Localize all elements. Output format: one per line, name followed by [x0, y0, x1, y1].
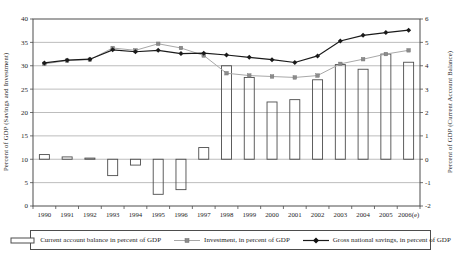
bar-current-account: [130, 159, 140, 165]
legend-item-gross-national-savings: Gross national savings, in percent of GD…: [303, 236, 451, 245]
x-tick-label: 2003: [334, 211, 348, 218]
investment-marker: [384, 52, 388, 56]
savings-marker: [178, 51, 183, 56]
right-tick-label: 2: [425, 109, 429, 117]
left-tick-label: 30: [21, 62, 29, 70]
legend-label-investment: Investment, in percent of GDP: [204, 236, 290, 244]
bar-current-account: [335, 65, 345, 160]
investment-line-swatch-icon: [174, 236, 200, 245]
x-tick-label: 1990: [38, 211, 52, 218]
legend-label-gross-national-savings: Gross national savings, in percent of GD…: [333, 236, 451, 244]
savings-marker: [156, 48, 161, 53]
x-tick-label: 1997: [197, 211, 211, 218]
left-tick-label: 25: [21, 86, 29, 94]
savings-marker: [406, 28, 411, 33]
left-tick-label: 15: [21, 132, 29, 140]
savings-marker: [270, 57, 275, 62]
savings-marker: [247, 55, 252, 60]
bar-current-account: [244, 77, 254, 159]
x-tick-label: 2002: [311, 211, 325, 218]
left-tick-label: 0: [25, 202, 29, 210]
legend-item-current-account-balance: Current account balance in percent of GD…: [10, 236, 161, 245]
x-tick-label: 1999: [242, 211, 256, 218]
investment-marker: [293, 76, 297, 80]
left-tick-label: 40: [21, 15, 29, 23]
savings-line: [44, 30, 408, 63]
bar-current-account: [358, 69, 368, 159]
x-tick-label: 2004: [356, 211, 370, 218]
investment-marker: [407, 49, 411, 53]
right-tick-label: 0: [425, 156, 429, 164]
bar-current-account: [267, 102, 277, 159]
left-tick-label: 5: [25, 179, 29, 187]
bar-current-account: [404, 62, 414, 159]
investment-marker: [156, 42, 160, 46]
bar-current-account: [62, 157, 72, 159]
investment-marker: [361, 57, 365, 61]
x-tick-label: 2001: [288, 211, 302, 218]
savings-marker: [224, 52, 229, 57]
right-tick-label: 1: [425, 132, 429, 140]
right-tick-label: 6: [425, 15, 429, 23]
bar-current-account: [199, 148, 209, 160]
x-tick-label: 2000: [265, 211, 279, 218]
x-tick-label: 1994: [129, 211, 143, 218]
right-tick-label: -2: [425, 202, 431, 210]
bar-current-account: [39, 155, 49, 160]
investment-marker: [339, 62, 343, 66]
left-tick-label: 35: [21, 39, 29, 47]
legend-label-current-account-balance: Current account balance in percent of GD…: [40, 236, 161, 244]
right-axis-title: Percent of GDP (Current Account Balance): [446, 14, 454, 210]
right-tick-label: 5: [425, 39, 429, 47]
bar-current-account: [381, 54, 391, 159]
bar-series-swatch-icon: [10, 236, 36, 245]
right-tick-label: 4: [425, 62, 429, 70]
left-tick-label: 20: [21, 109, 29, 117]
legend-item-investment: Investment, in percent of GDP: [174, 236, 290, 245]
savings-marker: [361, 33, 366, 38]
left-axis-title: Percent of GDP (Savings and Investment): [2, 14, 10, 210]
x-tick-label: 1992: [83, 211, 97, 218]
chart-plot-area: 40353025201510506543210-1-21990199119921…: [0, 0, 456, 228]
investment-marker: [316, 74, 320, 78]
right-tick-label: 3: [425, 86, 429, 94]
bar-current-account: [85, 158, 95, 159]
x-tick-label: 2005: [379, 211, 393, 218]
legend: Current account balance in percent of GD…: [30, 230, 431, 250]
x-tick-label: 1996: [174, 211, 188, 218]
bar-current-account: [176, 159, 186, 189]
bar-current-account: [108, 159, 118, 175]
savings-line-swatch-icon: [303, 236, 329, 245]
bar-current-account: [313, 80, 323, 159]
x-tick-label: 2006(e): [398, 211, 419, 219]
right-tick-label: -1: [425, 179, 431, 187]
x-tick-label: 1998: [220, 211, 234, 218]
savings-marker: [292, 60, 297, 65]
bar-current-account: [290, 100, 300, 160]
x-tick-label: 1993: [106, 211, 120, 218]
bar-current-account: [153, 159, 163, 194]
savings-marker: [383, 30, 388, 35]
investment-marker: [225, 71, 229, 75]
investment-marker: [247, 74, 251, 78]
x-tick-label: 1991: [60, 211, 74, 218]
x-tick-label: 1995: [151, 211, 165, 218]
investment-marker: [270, 75, 274, 79]
left-tick-label: 10: [21, 156, 29, 164]
investment-marker: [179, 46, 183, 50]
